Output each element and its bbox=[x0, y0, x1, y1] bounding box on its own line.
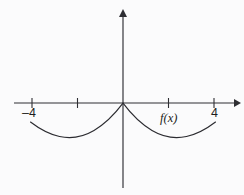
x-axis-label-negative-four: –4 bbox=[22, 107, 36, 120]
function-graph-figure: –4 4 f(x) bbox=[0, 0, 244, 195]
plot-canvas bbox=[0, 0, 244, 195]
x-axis-label-positive-four: 4 bbox=[211, 107, 218, 120]
y-axis-group bbox=[119, 9, 127, 188]
x-axis-group bbox=[14, 99, 241, 107]
x-axis-arrow-icon bbox=[234, 99, 241, 107]
function-curve-label: f(x) bbox=[160, 112, 177, 125]
y-axis-arrow-icon bbox=[119, 9, 127, 17]
